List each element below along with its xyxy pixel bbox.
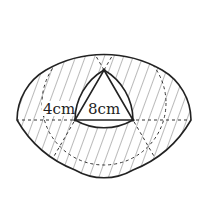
label-4cm: 4cm (43, 100, 75, 118)
geometry-diagram: 4cm 8cm (0, 0, 206, 198)
label-8cm: 8cm (88, 100, 120, 118)
